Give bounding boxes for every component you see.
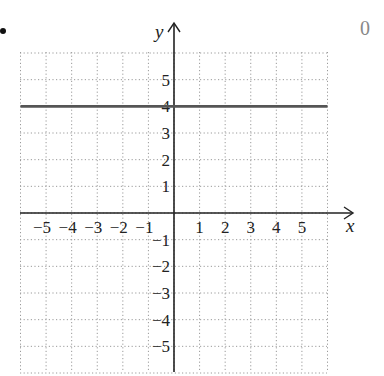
coordinate-plane: xy−5−4−3−2−11234554321−1−2−3−4−5 (0, 0, 384, 376)
y-tick-label: −5 (152, 337, 170, 356)
y-tick-label: 2 (162, 151, 171, 170)
y-tick-label: −2 (152, 257, 170, 276)
x-tick-label: −4 (59, 218, 78, 237)
y-tick-label: −3 (152, 284, 170, 303)
x-tick-label: 5 (298, 218, 307, 237)
x-tick-label: 4 (272, 218, 281, 237)
x-tick-label: 3 (247, 218, 256, 237)
y-axis-label: y (153, 21, 164, 42)
x-tick-label: 2 (221, 218, 230, 237)
x-tick-label: −5 (33, 218, 51, 237)
y-tick-label: 5 (162, 71, 171, 90)
y-tick-label: 1 (162, 177, 171, 196)
y-tick-label: 3 (162, 124, 171, 143)
y-tick-label: −4 (152, 311, 171, 330)
x-tick-label: −1 (135, 218, 153, 237)
x-tick-label: 1 (195, 218, 204, 237)
x-axis-label: x (345, 215, 355, 236)
x-tick-label: −2 (110, 218, 128, 237)
y-tick-label: −1 (152, 231, 170, 250)
x-tick-label: −3 (84, 218, 102, 237)
